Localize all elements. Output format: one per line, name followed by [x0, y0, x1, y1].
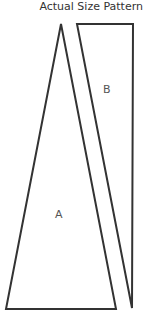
piece-b-label: B: [103, 83, 111, 96]
pattern-piece-a: [6, 24, 116, 309]
piece-a-label: A: [55, 208, 63, 221]
pattern-diagram: [0, 0, 145, 317]
pattern-piece-b: [77, 24, 133, 308]
